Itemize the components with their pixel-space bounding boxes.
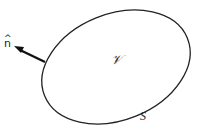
normal-label: n bbox=[4, 38, 11, 49]
normal-vector-arrow bbox=[20, 50, 45, 62]
volume-label: 𝒱 bbox=[111, 53, 122, 66]
surface-label: S bbox=[140, 110, 146, 122]
surface-diagram bbox=[0, 0, 197, 131]
